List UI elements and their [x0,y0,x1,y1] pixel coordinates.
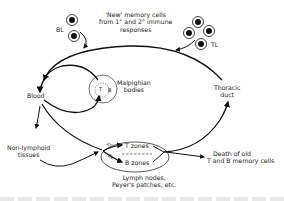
new-memory-line2: from 1° and 2° immune [99,18,172,25]
death-line1: Death of old [207,150,274,157]
new-memory-line3: responses [99,26,172,33]
new-memory-label: 'New' memory cells from 1° and 2° immune… [99,11,172,33]
bl-cells-icon [67,15,80,42]
b-zones-label: B zones [125,159,149,166]
thoracic-label: Thoracic duct [214,84,240,99]
blood-to-lymph [42,104,102,150]
death-line2: T and B memory cells [207,157,274,164]
lymph-nodes-label: Lymph nodes, Peyer's patches, etc. [112,174,176,189]
malpighian-b-label: B [108,87,111,93]
malpighian-inflow [44,96,99,113]
non-lymphoid-label: Non-lymphoid tissues [7,144,50,159]
t-zones-label: T zones [125,142,149,149]
malpighian-label: Malpighian bodies [117,79,151,94]
lymph-to-thoracic [164,102,228,152]
lymph-line2: Peyer's patches, etc. [112,181,176,188]
non-lymphoid-line2: tissues [7,151,50,158]
malpighian-t-label: T [99,86,102,92]
blood-label: Blood [27,92,44,99]
tl-arrow [176,40,195,50]
blood-to-nonlymphoid [36,106,40,128]
lymph-line1: Lymph nodes, [112,174,176,181]
cropped-caption [0,197,284,201]
bl-arrow [80,32,86,48]
new-memory-line1: 'New' memory cells [99,11,172,18]
death-label: Death of old T and B memory cells [207,150,274,165]
lymph-to-death [166,152,204,157]
malpighian-circle [89,75,117,103]
malpighian-line1: Malpighian [117,79,151,86]
malpighian-line2: bodies [117,86,151,93]
tl-cells-icon [184,17,215,50]
thoracic-line2: duct [214,91,240,98]
tl-label: TL [211,41,218,48]
non-lymphoid-line1: Non-lymphoid [7,144,50,151]
thoracic-line1: Thoracic [214,84,240,91]
bl-label: BL [56,26,64,33]
